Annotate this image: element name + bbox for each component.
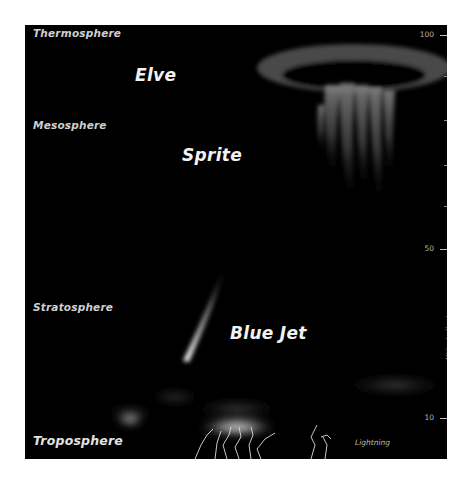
blue-jet	[183, 270, 225, 362]
layer-label-troposphere: Troposphere	[33, 433, 123, 448]
atmospheric-phenomena-illustration	[25, 25, 447, 459]
axis-minor-tick	[444, 76, 447, 77]
axis-tick-label-100: 100	[420, 30, 434, 39]
storm-clouds	[102, 375, 447, 437]
axis-tick-label-50: 50	[424, 244, 434, 253]
axis-title: Altitude (km)	[445, 315, 447, 361]
event-label-sprite: Sprite	[182, 145, 242, 165]
axis-major-tick	[440, 418, 447, 419]
axis-minor-tick	[444, 120, 447, 121]
axis-minor-tick	[444, 165, 447, 166]
event-label-blue-jet: Blue Jet	[230, 323, 307, 343]
axis-major-tick	[440, 249, 447, 250]
event-label-elve: Elve	[135, 65, 176, 85]
layer-label-thermosphere: Thermosphere	[33, 27, 121, 39]
event-label-lightning: Lightning	[355, 438, 390, 447]
layer-label-stratosphere: Stratosphere	[33, 301, 113, 313]
sprite-tendrils	[318, 83, 395, 203]
axis-minor-tick	[444, 206, 447, 207]
atmosphere-diagram-panel: Thermosphere Mesosphere Stratosphere Tro…	[25, 25, 447, 459]
axis-major-tick	[440, 35, 447, 36]
layer-label-mesosphere: Mesosphere	[33, 119, 107, 131]
axis-tick-label-10: 10	[424, 413, 434, 422]
